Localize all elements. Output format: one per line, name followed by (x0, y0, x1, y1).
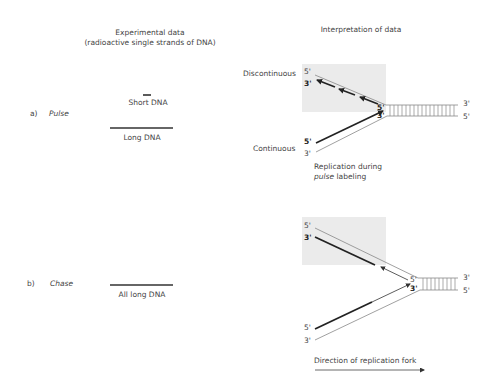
continuous-label: Continuous (253, 145, 295, 153)
end-label: 3' (304, 337, 311, 345)
end-label: 5' (304, 68, 311, 76)
replication-diagram (0, 0, 489, 386)
caption-line1: Replication during (314, 163, 382, 171)
end-label: 3' (377, 112, 385, 120)
panel-b-letter: b) (27, 280, 35, 288)
shaded-region-b (302, 217, 386, 265)
end-label: 5' (304, 324, 311, 332)
panel-a-letter: a) (30, 110, 38, 118)
long-dna-label: Long DNA (123, 134, 160, 142)
end-label: 3' (304, 234, 312, 242)
end-label: 5' (304, 222, 311, 230)
direction-label: Direction of replication fork (314, 357, 416, 365)
end-label: 5' (304, 138, 312, 146)
discontinuous-label: Discontinuous (243, 70, 296, 78)
leading-strand-b (315, 302, 372, 329)
end-label: 3' (304, 80, 312, 88)
leading-strand-a (316, 111, 383, 143)
panel-b-name: Chase (50, 280, 73, 288)
end-label: 5' (463, 113, 470, 121)
end-label: 3' (463, 100, 470, 108)
end-label: 5' (463, 287, 470, 295)
shaded-region-a (302, 64, 386, 112)
end-label: 3' (463, 274, 470, 282)
caption-rest: labeling (334, 172, 366, 181)
end-label: 3' (410, 285, 418, 293)
end-label: 3' (304, 150, 311, 158)
short-dna-label: Short DNA (128, 99, 167, 107)
end-label: 5' (410, 276, 417, 284)
panel-a-name: Pulse (49, 110, 69, 118)
caption-italic: pulse (314, 172, 334, 181)
all-long-dna-label: All long DNA (119, 291, 166, 299)
